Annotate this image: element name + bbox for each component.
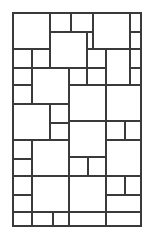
paver-tile-small	[69, 68, 87, 85]
paver-tile-large	[13, 13, 50, 49]
paver-tile-large	[50, 32, 87, 68]
paver-tile-small	[106, 212, 141, 226]
paver-tile-small	[106, 121, 125, 140]
paver-tile-large	[93, 13, 130, 49]
paver-tile-large	[106, 85, 141, 121]
paver-tile-large	[69, 121, 106, 157]
paver-tile-large	[32, 68, 69, 104]
paving-pattern-figure	[0, 0, 152, 239]
paver-tile-large	[32, 49, 50, 68]
paver-tile-small	[87, 32, 93, 49]
paver-tile-small	[13, 49, 32, 68]
paver-tile-small	[71, 13, 93, 32]
paver-tile-small	[53, 212, 69, 226]
paver-tile-small	[50, 104, 69, 123]
paver-tile-large	[32, 140, 69, 176]
paver-tile-large	[13, 176, 32, 195]
paver-tile-small	[88, 157, 106, 176]
paver-tile-small	[87, 68, 106, 85]
paver-tile-large	[106, 140, 141, 176]
paver-tile-small	[130, 49, 141, 68]
paver-tile-small	[13, 140, 32, 159]
paver-tile-small	[69, 157, 88, 176]
paver-tile-small	[106, 195, 141, 212]
paver-tile-small	[87, 49, 106, 68]
paver-tile-large	[32, 176, 69, 212]
paver-tile-small	[130, 13, 141, 32]
paver-tile-small	[50, 13, 71, 32]
paver-tile-small	[13, 195, 32, 212]
paver-tile-large	[13, 104, 50, 140]
paver-tile-small	[125, 121, 141, 140]
paver-tile-small	[13, 159, 32, 176]
paver-tile-small	[32, 212, 53, 226]
paver-tile-small	[130, 32, 141, 49]
paver-tile-small	[50, 123, 69, 140]
tile-layer	[13, 13, 141, 226]
paver-tile-large	[69, 176, 106, 212]
paver-tile-large	[106, 49, 130, 85]
paving-pattern-diagram	[0, 0, 152, 239]
paver-tile-small	[13, 85, 32, 104]
paver-tile-small	[69, 212, 106, 226]
paver-tile-small	[13, 212, 32, 226]
paver-tile-small	[125, 176, 141, 195]
paver-tile-small	[13, 68, 32, 85]
paver-tile-small	[106, 176, 125, 195]
paver-tile-large	[69, 85, 106, 121]
paver-tile-small	[130, 68, 141, 85]
